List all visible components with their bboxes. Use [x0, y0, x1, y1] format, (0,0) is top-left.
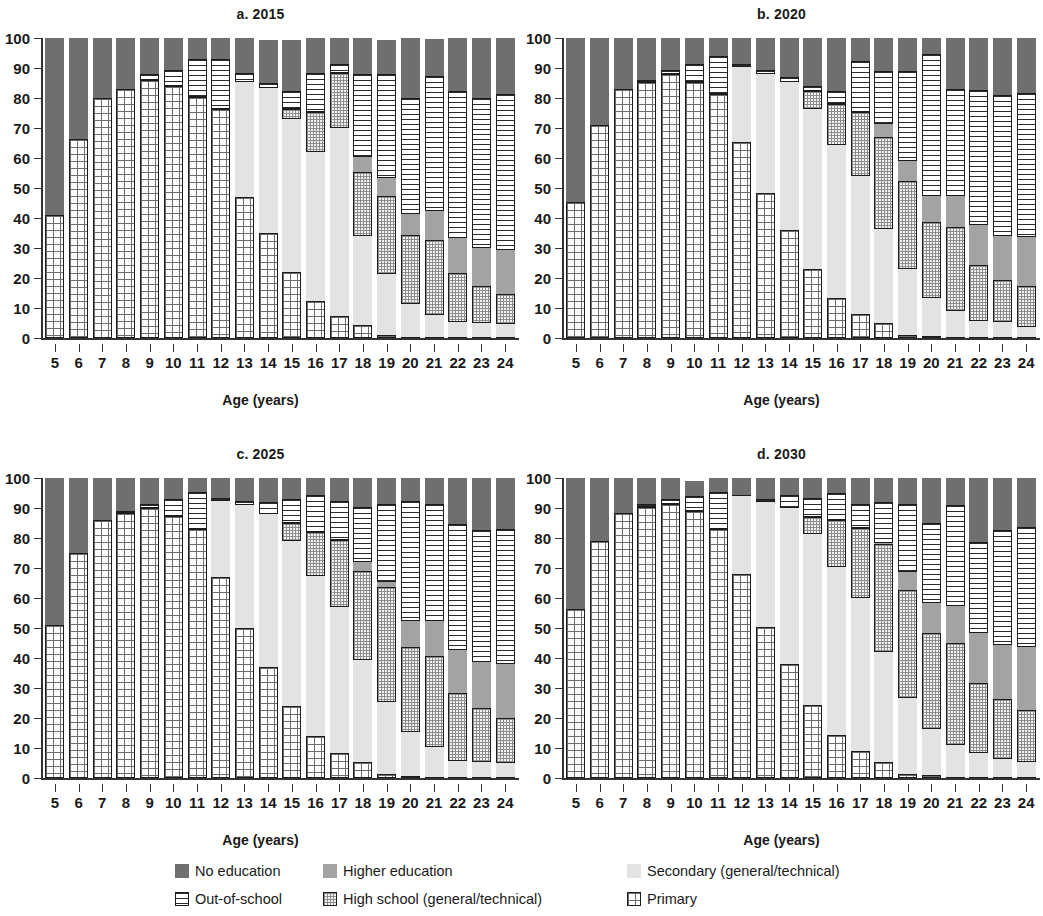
bar-age-8[interactable]: [116, 478, 135, 778]
bar-age-22[interactable]: [969, 38, 988, 338]
bar-age-8[interactable]: [116, 38, 135, 338]
x-tick-mark-17: [339, 344, 340, 352]
bar-segment-primary-age-15: [803, 269, 822, 338]
bar-segment-out_of_school-age-22: [969, 542, 988, 634]
bar-age-24[interactable]: [1017, 38, 1036, 338]
bar-age-10[interactable]: [164, 478, 183, 778]
bar-age-5[interactable]: [45, 478, 64, 778]
bar-age-22[interactable]: [448, 478, 467, 778]
bar-age-23[interactable]: [993, 38, 1012, 338]
bar-age-14[interactable]: [259, 478, 278, 778]
bar-age-19[interactable]: [898, 38, 917, 338]
bar-age-6[interactable]: [69, 478, 88, 778]
bar-age-13[interactable]: [235, 38, 254, 338]
x-axis-title-b: Age (years): [521, 392, 1042, 408]
bar-age-19[interactable]: [377, 478, 396, 778]
bar-segment-out_of_school-age-13: [235, 73, 254, 82]
bar-age-12[interactable]: [211, 478, 230, 778]
bar-age-12[interactable]: [211, 38, 230, 338]
bar-age-5[interactable]: [566, 38, 585, 338]
bar-age-19[interactable]: [898, 478, 917, 778]
bar-age-18[interactable]: [353, 38, 372, 338]
bar-age-6[interactable]: [590, 478, 609, 778]
bar-age-7[interactable]: [93, 478, 112, 778]
bar-age-14[interactable]: [780, 38, 799, 338]
bar-age-11[interactable]: [188, 38, 207, 338]
bar-age-6[interactable]: [69, 38, 88, 338]
bar-age-17[interactable]: [330, 38, 349, 338]
bar-age-23[interactable]: [472, 478, 491, 778]
bar-age-13[interactable]: [756, 478, 775, 778]
bar-age-15[interactable]: [282, 478, 301, 778]
bar-age-20[interactable]: [401, 478, 420, 778]
bar-age-16[interactable]: [306, 38, 325, 338]
bar-age-7[interactable]: [614, 478, 633, 778]
bar-age-16[interactable]: [827, 38, 846, 338]
bar-age-5[interactable]: [45, 38, 64, 338]
bar-age-18[interactable]: [874, 478, 893, 778]
bar-segment-high_school-age-20: [922, 222, 941, 299]
bar-age-21[interactable]: [425, 478, 444, 778]
bar-age-7[interactable]: [93, 38, 112, 338]
bar-age-20[interactable]: [401, 38, 420, 338]
bar-age-22[interactable]: [969, 478, 988, 778]
bar-age-17[interactable]: [851, 38, 870, 338]
bar-age-11[interactable]: [188, 478, 207, 778]
bar-age-14[interactable]: [780, 478, 799, 778]
bar-age-24[interactable]: [496, 478, 515, 778]
bar-age-21[interactable]: [946, 478, 965, 778]
bar-age-8[interactable]: [637, 478, 656, 778]
bar-age-24[interactable]: [496, 38, 515, 338]
bar-age-22[interactable]: [448, 38, 467, 338]
bar-age-17[interactable]: [851, 478, 870, 778]
bar-age-18[interactable]: [874, 38, 893, 338]
y-tick-mark-100: [555, 478, 562, 479]
y-tick-label-30: 30: [534, 680, 551, 697]
bar-age-18[interactable]: [353, 478, 372, 778]
bar-age-21[interactable]: [425, 38, 444, 338]
bar-age-10[interactable]: [164, 38, 183, 338]
x-tick-mark-17: [860, 784, 861, 792]
x-tick-label-11: 11: [189, 794, 205, 811]
bar-segment-high_school-age-23: [993, 699, 1012, 759]
bar-age-15[interactable]: [282, 38, 301, 338]
y-tick-label-90: 90: [534, 500, 551, 517]
bar-age-9[interactable]: [140, 478, 159, 778]
bar-age-15[interactable]: [803, 38, 822, 338]
bar-age-16[interactable]: [306, 478, 325, 778]
bar-age-13[interactable]: [235, 478, 254, 778]
bar-age-11[interactable]: [709, 478, 728, 778]
legend-label-no-education: No education: [195, 863, 280, 879]
bar-segment-high_school-age-24: [1017, 710, 1036, 763]
bar-age-9[interactable]: [140, 38, 159, 338]
bar-age-5[interactable]: [566, 478, 585, 778]
bar-age-20[interactable]: [922, 38, 941, 338]
bar-age-19[interactable]: [377, 38, 396, 338]
bar-age-10[interactable]: [685, 478, 704, 778]
bar-age-24[interactable]: [1017, 478, 1036, 778]
bar-age-23[interactable]: [993, 478, 1012, 778]
bar-segment-out_of_school-age-22: [969, 90, 988, 225]
bar-segment-secondary-age-16: [827, 567, 846, 735]
bar-age-21[interactable]: [946, 38, 965, 338]
bar-age-12[interactable]: [732, 38, 751, 338]
bar-age-9[interactable]: [661, 38, 680, 338]
bar-segment-higher_education-age-19: [377, 178, 396, 196]
bar-age-16[interactable]: [827, 478, 846, 778]
bar-age-6[interactable]: [590, 38, 609, 338]
bar-age-8[interactable]: [637, 38, 656, 338]
bar-age-20[interactable]: [922, 478, 941, 778]
bar-age-13[interactable]: [756, 38, 775, 338]
bar-segment-no_education-age-18: [353, 478, 372, 507]
bar-age-9[interactable]: [661, 478, 680, 778]
bar-segment-out_of_school-age-12: [211, 498, 230, 500]
bar-age-14[interactable]: [259, 38, 278, 338]
x-tick-mark-20: [410, 344, 411, 352]
bar-age-7[interactable]: [614, 38, 633, 338]
bar-age-11[interactable]: [709, 38, 728, 338]
bar-age-12[interactable]: [732, 478, 751, 778]
bar-age-15[interactable]: [803, 478, 822, 778]
bar-age-23[interactable]: [472, 38, 491, 338]
bar-age-17[interactable]: [330, 478, 349, 778]
bar-age-10[interactable]: [685, 38, 704, 338]
